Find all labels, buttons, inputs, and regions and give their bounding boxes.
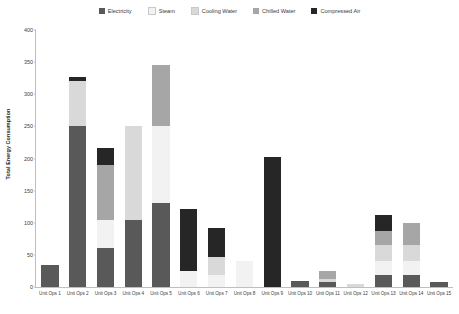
stacked-bar[interactable]: [236, 261, 253, 287]
x-axis-label: Unit Ops 2: [67, 291, 89, 296]
plot-area: 050100150200250300350400: [36, 30, 453, 287]
bar-slot: [64, 30, 92, 287]
legend-swatch-icon: [99, 8, 105, 14]
legend-item: Steam: [148, 7, 175, 15]
bar-segment: [125, 126, 142, 219]
stacked-bar[interactable]: [403, 223, 420, 287]
stacked-bar-chart: ElectricitySteamCooling WaterChilled Wat…: [0, 0, 459, 314]
x-axis-label-slot: Unit Ops 11: [314, 289, 342, 305]
bar-segment: [375, 215, 392, 231]
bar-slot: [258, 30, 286, 287]
legend-item: Chilled Water: [253, 8, 295, 15]
bar-segment: [375, 261, 392, 275]
legend-swatch-icon: [148, 7, 156, 15]
bar-segment: [291, 281, 308, 287]
x-axis-label-slot: Unit Ops 5: [147, 289, 175, 305]
y-axis-title: Total Energy Consumption: [2, 0, 14, 287]
bar-segment: [41, 265, 58, 287]
x-axis-label: Unit Ops 12: [344, 291, 368, 296]
x-axis-label-slot: Unit Ops 9: [258, 289, 286, 305]
bar-segment: [375, 231, 392, 245]
bar-segment: [430, 282, 447, 287]
bar-slot: [397, 30, 425, 287]
stacked-bar[interactable]: [291, 281, 308, 287]
x-axis-label-slot: Unit Ops 4: [119, 289, 147, 305]
x-axis-label: Unit Ops 10: [288, 291, 312, 296]
x-axis-label: Unit Ops 3: [95, 291, 117, 296]
bar-slot: [203, 30, 231, 287]
chart-legend: ElectricitySteamCooling WaterChilled Wat…: [0, 4, 459, 18]
bar-segment: [264, 157, 281, 287]
bar-segment: [97, 248, 114, 287]
x-axis-label: Unit Ops 9: [261, 291, 283, 296]
bar-group: [36, 30, 453, 287]
legend-swatch-icon: [191, 7, 199, 15]
x-axis-label: Unit Ops 6: [178, 291, 200, 296]
x-axis-labels: Unit Ops 1Unit Ops 2Unit Ops 3Unit Ops 4…: [36, 289, 453, 305]
bar-segment: [403, 245, 420, 261]
x-axis-label: Unit Ops 8: [234, 291, 256, 296]
x-axis-label: Unit Ops 14: [399, 291, 423, 296]
legend-item: Compressed Air: [311, 8, 360, 15]
x-axis-label: Unit Ops 13: [371, 291, 395, 296]
stacked-bar[interactable]: [375, 215, 392, 287]
x-axis-line: [35, 287, 453, 288]
x-axis-label-slot: Unit Ops 2: [64, 289, 92, 305]
x-axis-label: Unit Ops 11: [316, 291, 340, 296]
stacked-bar[interactable]: [125, 126, 142, 287]
x-axis-label-slot: Unit Ops 10: [286, 289, 314, 305]
stacked-bar[interactable]: [69, 77, 86, 287]
x-axis-label: Unit Ops 1: [39, 291, 61, 296]
bar-slot: [119, 30, 147, 287]
stacked-bar[interactable]: [208, 228, 225, 287]
legend-label: Cooling Water: [202, 8, 237, 15]
legend-label: Steam: [159, 8, 175, 15]
bar-segment: [208, 257, 225, 275]
bar-segment: [97, 148, 114, 165]
bar-slot: [286, 30, 314, 287]
x-axis-label-slot: Unit Ops 6: [175, 289, 203, 305]
bar-slot: [425, 30, 453, 287]
bar-segment: [208, 228, 225, 258]
stacked-bar[interactable]: [319, 271, 336, 287]
bar-segment: [125, 220, 142, 287]
bar-segment: [152, 203, 169, 287]
stacked-bar[interactable]: [41, 265, 58, 287]
x-axis-label-slot: Unit Ops 12: [342, 289, 370, 305]
bar-slot: [175, 30, 203, 287]
bar-slot: [231, 30, 259, 287]
bar-segment: [97, 165, 114, 220]
bar-segment: [69, 126, 86, 287]
legend-item: Cooling Water: [191, 7, 237, 15]
x-axis-label-slot: Unit Ops 13: [370, 289, 398, 305]
bar-slot: [314, 30, 342, 287]
bar-segment: [69, 81, 86, 126]
bar-segment: [208, 275, 225, 287]
x-axis-label-slot: Unit Ops 7: [203, 289, 231, 305]
stacked-bar[interactable]: [264, 157, 281, 287]
y-axis-title-label: Total Energy Consumption: [5, 108, 11, 179]
bar-slot: [36, 30, 64, 287]
legend-item: Electricity: [99, 8, 132, 15]
bar-segment: [152, 126, 169, 203]
stacked-bar[interactable]: [97, 148, 114, 287]
legend-label: Chilled Water: [262, 8, 295, 15]
x-axis-label: Unit Ops 5: [150, 291, 172, 296]
stacked-bar[interactable]: [180, 209, 197, 287]
x-axis-label-slot: Unit Ops 8: [231, 289, 259, 305]
stacked-bar[interactable]: [152, 65, 169, 287]
bar-segment: [180, 271, 197, 287]
legend-swatch-icon: [253, 8, 259, 14]
bar-slot: [370, 30, 398, 287]
bar-segment: [236, 261, 253, 287]
stacked-bar[interactable]: [430, 282, 447, 287]
x-axis-label: Unit Ops 7: [206, 291, 228, 296]
bar-segment: [403, 223, 420, 245]
bar-segment: [403, 261, 420, 275]
bar-segment: [97, 220, 114, 249]
x-axis-label-slot: Unit Ops 14: [397, 289, 425, 305]
x-axis-label-slot: Unit Ops 3: [92, 289, 120, 305]
stacked-bar[interactable]: [347, 284, 364, 287]
bar-slot: [147, 30, 175, 287]
bar-segment: [319, 271, 336, 279]
